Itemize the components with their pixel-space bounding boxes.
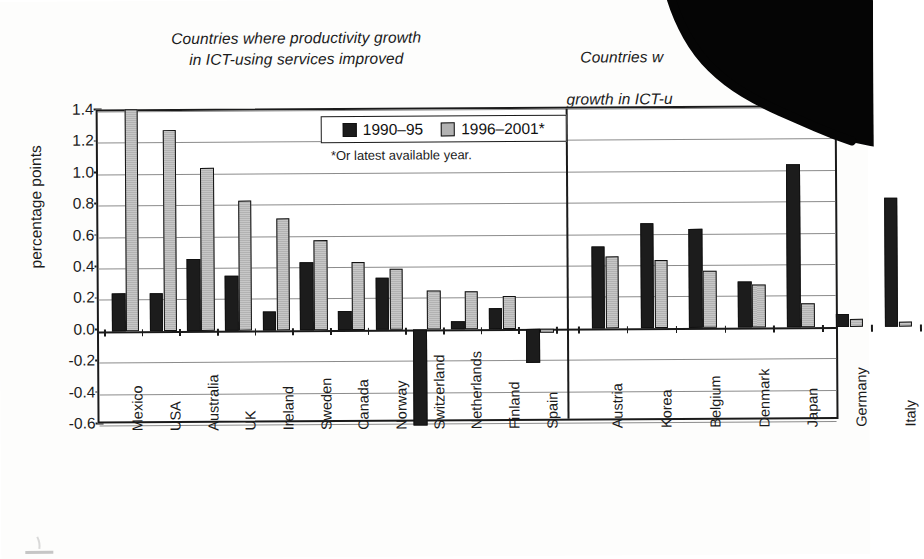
legend-label-series-1: 1990–95 (363, 120, 423, 138)
bar-group (256, 110, 296, 420)
legend: 1990–95 1996–2001* (321, 115, 567, 144)
bar (540, 329, 553, 334)
left-panel-title: Countries where productivity growth in I… (106, 26, 486, 70)
y-axis-tick-label: 0.0 (49, 320, 95, 338)
x-axis-ticks (0, 0, 867, 2)
y-axis-tick-label: 1.0 (48, 163, 94, 181)
x-axis-category-label: Australia (205, 374, 221, 431)
x-axis-category-label: Switzerland (431, 354, 447, 429)
bar-group (294, 110, 334, 420)
x-axis-tick-mark (330, 328, 332, 335)
bar (526, 329, 540, 364)
bar (738, 282, 752, 328)
bar (836, 314, 850, 327)
x-axis-tick-mark (104, 329, 106, 336)
x-axis-tick-mark (179, 329, 181, 336)
bar-group (580, 108, 631, 418)
y-axis-tick-label: 0.6 (48, 226, 94, 244)
x-axis-tick-mark (725, 325, 727, 332)
bar-group (677, 108, 728, 418)
bar (801, 303, 815, 327)
bar (503, 296, 517, 329)
x-axis-category-label: Japan (805, 388, 821, 428)
bar-group (106, 111, 146, 421)
bar (413, 329, 427, 425)
y-axis-tick-label: 1.2 (48, 132, 94, 150)
y-axis-tick-label: 1.4 (48, 101, 94, 119)
y-axis-tick-label: -0.2 (49, 352, 95, 370)
bar (465, 291, 479, 329)
y-axis-tick-label: 0.2 (49, 289, 95, 307)
x-axis-category-label: Korea (658, 389, 674, 428)
bar (427, 290, 441, 329)
bar (899, 322, 913, 327)
bar (786, 164, 800, 327)
bar-group (143, 111, 183, 421)
legend-entry-series-1: 1990–95 (343, 120, 423, 138)
bar (276, 219, 290, 331)
bar (703, 271, 717, 328)
x-axis-category-label: UK (243, 410, 259, 430)
x-axis-tick-mark (822, 325, 824, 332)
x-axis-category-label: Finland (506, 381, 522, 429)
x-axis-category-label: Sweden (318, 378, 334, 431)
legend-swatch-icon-series-1 (343, 122, 357, 136)
bar (187, 258, 201, 330)
bar (489, 308, 503, 328)
bar-group (775, 107, 826, 417)
scanned-page: Countries where productivity growth in I… (0, 0, 870, 559)
x-axis-tick-mark (773, 325, 775, 332)
x-axis-category-label: Austria (609, 383, 625, 428)
bar (752, 285, 766, 327)
bar-group (873, 106, 924, 416)
bar-group (520, 109, 560, 419)
bar (591, 247, 605, 329)
x-axis-tick-mark (443, 327, 445, 334)
bar (200, 167, 214, 330)
x-axis-tick-mark (368, 328, 370, 335)
bar (352, 262, 366, 330)
legend-entry-series-2: 1996–2001* (441, 119, 545, 138)
bar (125, 110, 140, 331)
x-axis-category-label: Italy (903, 400, 919, 427)
legend-swatch-icon-series-2 (441, 122, 455, 136)
x-axis-category-label: Mexico (130, 385, 146, 431)
bar (689, 229, 703, 328)
x-axis-tick-mark (676, 326, 678, 333)
bar (850, 319, 864, 327)
bar (300, 263, 314, 331)
x-axis-tick-mark (518, 327, 520, 334)
right-panel-title-line-1: Countries w (558, 45, 858, 68)
x-axis-tick-mark (627, 326, 629, 333)
x-axis-category-label: Spain (544, 392, 560, 429)
bars-panel-deteriorated (570, 107, 835, 419)
bar (112, 293, 126, 331)
bar (225, 275, 239, 330)
x-axis-category-label: Norway (393, 380, 409, 429)
y-axis-tick-label: 0.8 (48, 195, 94, 213)
x-axis-tick-mark (255, 328, 257, 335)
bar (150, 293, 164, 331)
bar (451, 321, 464, 329)
legend-label-series-2: 1996–2001* (461, 119, 545, 138)
bar-group (482, 109, 522, 419)
y-axis-tick-label: 0.4 (49, 258, 95, 276)
legend-footnote: *Or latest available year. (331, 147, 472, 163)
x-axis-tick-mark (920, 324, 922, 331)
x-axis-category-label: USA (167, 401, 183, 431)
bar (884, 198, 898, 327)
y-axis-tick-label: -0.6 (49, 415, 95, 433)
x-axis-tick-mark (556, 327, 558, 334)
x-axis-category-label: Denmark (756, 369, 772, 428)
x-axis-category-label: Ireland (280, 386, 296, 430)
bar-group (629, 108, 680, 418)
bar (654, 260, 668, 328)
x-axis-category-label: Germany (853, 367, 869, 427)
bar (605, 256, 619, 328)
bar (263, 311, 277, 330)
bar (640, 223, 654, 328)
y-axis-ticks: 1.41.21.00.80.60.40.20.0-0.2-0.4-0.6 (38, 110, 96, 424)
x-axis-tick-mark (405, 327, 407, 334)
x-axis-category-label: Netherlands (468, 351, 484, 429)
x-axis-tick-mark (481, 327, 483, 334)
